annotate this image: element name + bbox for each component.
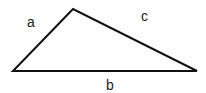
side-label-a: a [27,14,35,30]
side-label-b: b [106,77,114,93]
triangle-diagram: a c b [0,0,206,93]
triangle-shape [13,9,197,71]
side-label-c: c [141,8,148,24]
